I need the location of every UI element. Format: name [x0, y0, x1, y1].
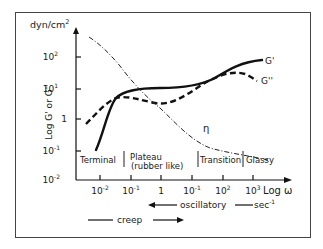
- arrow-right-icon: [177, 217, 184, 223]
- region-transition: Transition: [199, 155, 241, 165]
- region-rubber-like: (rubber like): [131, 161, 183, 171]
- svg-text:102: 102: [215, 184, 230, 196]
- svg-text:creep: creep: [117, 215, 143, 225]
- y-axis-arrow-icon: [73, 27, 79, 34]
- svg-text:10-1: 10-1: [122, 184, 140, 196]
- svg-text:10-2: 10-2: [43, 173, 61, 185]
- viscoelastic-spectrum-chart: dyn/cm2 102 101 1 10-1 10-2 Log G' or G'…: [0, 0, 323, 249]
- svg-text:10-2: 10-2: [91, 184, 109, 196]
- svg-text:10-1: 10-1: [43, 144, 61, 156]
- svg-text:103: 103: [245, 184, 260, 196]
- svg-text:1: 1: [158, 186, 164, 196]
- y-unit-label: dyn/cm2: [30, 18, 70, 30]
- y-axis-title: Log G' or G'': [44, 84, 54, 139]
- creep-annotation: creep: [88, 215, 184, 225]
- arrow-left-icon: [148, 202, 155, 208]
- region-labels: Terminal Plateau (rubber like) Transitio…: [79, 152, 274, 171]
- svg-text:sec-1: sec-1: [254, 198, 275, 210]
- x-axis: [76, 175, 292, 183]
- g-double-prime-curve: [86, 73, 257, 124]
- x-tick-labels: 10-2 10-1 1 10-1 102 103: [91, 184, 261, 196]
- svg-text:oscillatory: oscillatory: [180, 200, 227, 210]
- x-axis-title: Log ω: [263, 185, 292, 196]
- eta-label: η: [203, 123, 209, 134]
- region-glassy: Glassy: [246, 155, 274, 165]
- g-prime-curve: [96, 60, 262, 150]
- g-prime-label: G': [265, 56, 274, 66]
- region-terminal: Terminal: [79, 155, 116, 165]
- x-axis-arrow-icon: [284, 177, 292, 183]
- g-double-prime-label: G'': [261, 76, 273, 86]
- svg-text:10-1: 10-1: [183, 184, 201, 196]
- oscillatory-annotation: oscillatory sec-1: [148, 198, 275, 210]
- svg-text:1: 1: [61, 114, 67, 124]
- svg-text:102: 102: [43, 50, 58, 62]
